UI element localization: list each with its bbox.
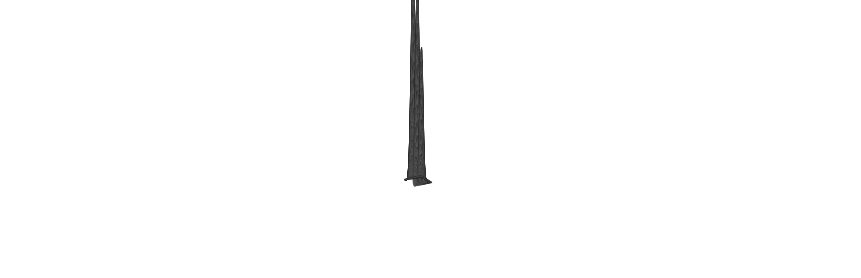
surface-mesh-plot — [0, 0, 861, 278]
figure-root — [0, 0, 861, 278]
plot-background — [0, 0, 861, 278]
